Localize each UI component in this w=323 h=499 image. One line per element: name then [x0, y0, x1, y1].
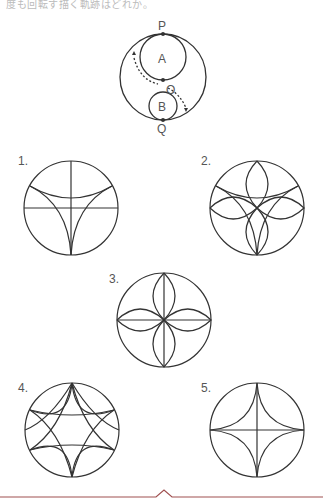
label-o: O [166, 83, 175, 97]
label-p: P [158, 19, 166, 33]
option-4-figure[interactable] [25, 383, 119, 477]
label-a: A [158, 52, 166, 66]
footer-divider [0, 490, 323, 497]
option-4-number: 4. [18, 381, 28, 395]
option-3-number: 3. [109, 272, 119, 286]
label-q: Q [157, 122, 166, 136]
option-5-number: 5. [201, 381, 211, 395]
arrowhead-down-icon [184, 108, 188, 112]
option-5-figure[interactable] [210, 383, 304, 477]
diagram-canvas: P A O B Q 1. 2. 3. 4. 5. [0, 0, 323, 499]
option-1-figure[interactable] [24, 161, 118, 255]
point-o [161, 78, 165, 82]
option-2-number: 2. [201, 154, 211, 168]
option-1-number: 1. [18, 154, 28, 168]
arrowhead-up-icon [132, 51, 136, 55]
option-3-figure[interactable] [117, 273, 211, 367]
option-2-figure[interactable] [210, 161, 304, 255]
dashed-arrow-a [134, 58, 158, 84]
label-b: B [158, 100, 166, 114]
